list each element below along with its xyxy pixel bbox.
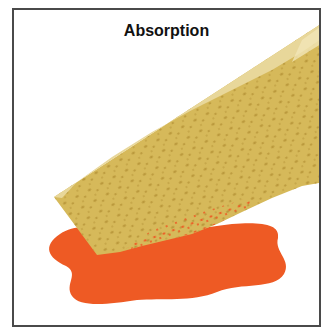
figure-frame: Absorption (12, 8, 321, 327)
absorption-illustration (14, 10, 321, 327)
figure-title: Absorption (14, 22, 319, 40)
